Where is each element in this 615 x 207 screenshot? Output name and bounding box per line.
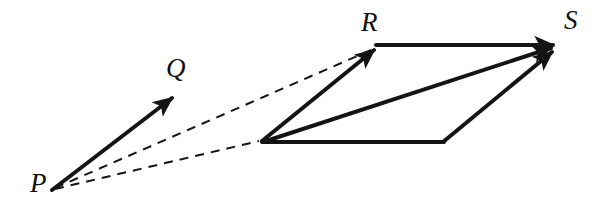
vector-PQ	[52, 98, 172, 190]
vertex-label-s: S	[564, 7, 578, 34]
vector-diagram-figure: P Q R S	[0, 0, 615, 207]
translation-line-P-to-R	[55, 50, 371, 188]
vertex-label-q: Q	[166, 55, 186, 82]
vector-diagram-canvas	[0, 0, 615, 207]
vector-OR	[262, 50, 374, 141]
vertex-label-p: P	[30, 170, 47, 197]
solid-vectors	[52, 45, 553, 190]
vertex-label-r: R	[361, 9, 378, 36]
vector-OS	[263, 48, 551, 142]
dashed-construction-lines	[55, 50, 371, 189]
